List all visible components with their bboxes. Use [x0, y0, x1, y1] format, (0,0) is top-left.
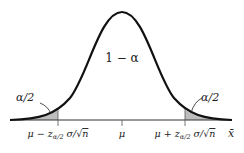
left-tail-label: α/2 [16, 91, 34, 104]
normal-curve [10, 12, 232, 120]
axis-label: x̄ [228, 127, 235, 140]
center-area-label: 1 − α [105, 51, 138, 65]
tick-label-upper-bound: μ + zα/2 σ/√n [155, 128, 216, 141]
right-tail-label: α/2 [201, 91, 219, 104]
tick-label-lower-bound: μ − zα/2 σ/√n [28, 128, 89, 141]
confidence-interval-diagram: 1 − α α/2 α/2 x̄ μ μ − zα/2 σ/√n μ + zα/… [0, 0, 244, 153]
tick-label-mu: μ [119, 128, 126, 139]
